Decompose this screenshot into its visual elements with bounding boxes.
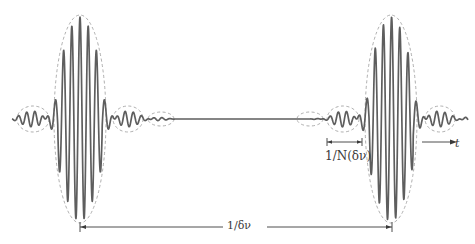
pulse-width-arrowhead-right	[357, 140, 362, 143]
annotation-group	[80, 138, 457, 232]
period-arrowhead-right	[386, 225, 392, 229]
pulse-train-diagram	[0, 0, 475, 244]
period-label: 1/δν	[225, 220, 253, 231]
time-axis-label: t	[455, 138, 459, 149]
pulse-width-arrowhead-left	[328, 140, 333, 143]
waveform-curve	[12, 17, 468, 219]
period-arrowhead-left	[81, 225, 87, 229]
pulse-width-label: 1/N(δν)	[325, 150, 371, 162]
